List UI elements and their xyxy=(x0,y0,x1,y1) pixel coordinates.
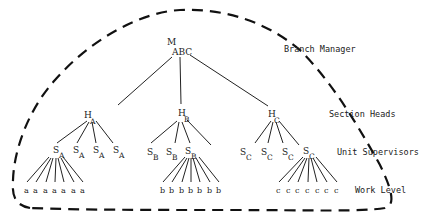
svg-text:B: B xyxy=(191,152,197,161)
level-label-section-heads: Section Heads xyxy=(329,109,396,119)
svg-text:C: C xyxy=(274,116,280,125)
svg-text:C: C xyxy=(267,153,273,162)
svg-text:C: C xyxy=(246,153,252,162)
svg-text:b: b xyxy=(169,186,174,195)
node-unit-supervisor-b2: S B xyxy=(166,147,178,162)
svg-text:a: a xyxy=(24,186,29,195)
svg-text:b: b xyxy=(216,186,221,195)
svg-text:C: C xyxy=(288,153,294,162)
svg-text:b: b xyxy=(188,186,193,195)
workers-a: a a a a a a a xyxy=(24,186,85,195)
node-unit-supervisor-c3: S C xyxy=(282,147,294,162)
svg-text:A: A xyxy=(89,117,96,126)
svg-text:b: b xyxy=(197,186,202,195)
workers-c: c c c c c c c xyxy=(276,186,339,195)
org-diagram: M ABC H A H B H C S A S A S A S A S B S … xyxy=(0,0,432,224)
svg-text:A: A xyxy=(58,151,65,160)
svg-text:A: A xyxy=(78,151,85,160)
node-section-head-a: H A xyxy=(84,110,96,126)
node-unit-supervisor-b1: S B xyxy=(147,147,159,162)
level-label-unit-supervisors: Unit Supervisors xyxy=(337,147,419,157)
svg-text:ABC: ABC xyxy=(171,47,192,57)
svg-text:A: A xyxy=(98,151,105,160)
edges xyxy=(27,55,337,182)
node-unit-supervisor-a4: S A xyxy=(113,145,125,160)
svg-text:b: b xyxy=(160,186,165,195)
node-unit-supervisor-a2: S A xyxy=(73,145,85,160)
node-unit-supervisor-a1: S A xyxy=(53,145,65,160)
svg-text:a: a xyxy=(61,186,66,195)
level-label-work-level: Work Level xyxy=(355,185,406,195)
svg-text:a: a xyxy=(52,186,57,195)
svg-text:B: B xyxy=(172,153,178,162)
node-unit-supervisor-a3: S A xyxy=(93,145,105,160)
node-unit-supervisor-c1: S C xyxy=(240,147,252,162)
svg-text:c: c xyxy=(286,186,291,195)
svg-text:c: c xyxy=(315,186,320,195)
svg-text:a: a xyxy=(80,186,85,195)
svg-text:B: B xyxy=(153,153,159,162)
svg-text:a: a xyxy=(43,186,48,195)
svg-text:c: c xyxy=(305,186,310,195)
svg-text:a: a xyxy=(71,186,76,195)
node-unit-supervisor-c2: S C xyxy=(261,147,273,162)
node-branch-manager: M ABC xyxy=(167,37,192,57)
svg-text:a: a xyxy=(33,186,38,195)
level-label-branch-manager: Branch Manager xyxy=(284,44,356,54)
svg-text:C: C xyxy=(309,152,315,161)
svg-text:M: M xyxy=(167,37,176,47)
svg-text:c: c xyxy=(334,186,339,195)
svg-text:c: c xyxy=(276,186,281,195)
workers-b: b b b b b b b xyxy=(160,186,221,195)
svg-text:b: b xyxy=(179,186,184,195)
node-section-head-b: H B xyxy=(178,108,190,124)
svg-text:c: c xyxy=(295,186,300,195)
svg-text:B: B xyxy=(184,115,190,124)
svg-text:b: b xyxy=(207,186,212,195)
svg-text:c: c xyxy=(324,186,329,195)
svg-text:A: A xyxy=(118,151,125,160)
